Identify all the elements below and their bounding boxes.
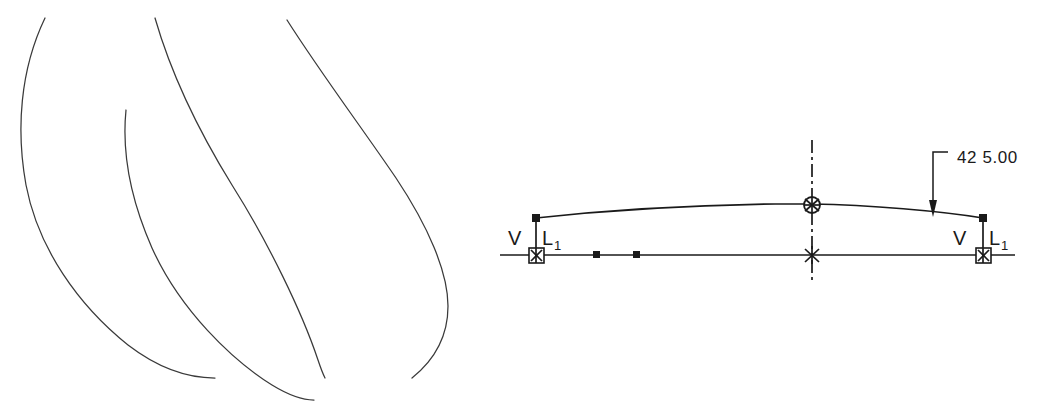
constraint-right-length-subscript: 1 [1001, 238, 1008, 253]
constraint-right-length[interactable]: L [989, 227, 1000, 249]
dimension-arrow-icon [929, 200, 937, 217]
baseline-point-2[interactable] [633, 251, 640, 258]
constraint-left-length[interactable]: L [542, 227, 553, 249]
baseline-point-1[interactable] [593, 251, 600, 258]
dimensioned-arc-sketch: 42 5.00 V L 1 V L 1 [0, 0, 1037, 410]
constraint-left-length-subscript: 1 [554, 238, 561, 253]
dimension-value-text[interactable]: 42 5.00 [957, 148, 1018, 167]
arc-left-node[interactable] [532, 214, 540, 222]
dimension-leader-line[interactable] [933, 152, 948, 206]
constraint-right-vertical[interactable]: V [953, 227, 967, 249]
profile-arc[interactable] [536, 204, 983, 218]
drawing-canvas: 42 5.00 V L 1 V L 1 [0, 0, 1037, 410]
arc-apex-cross-icon [804, 197, 820, 213]
arc-right-node[interactable] [979, 214, 987, 222]
constraint-left-vertical[interactable]: V [508, 227, 522, 249]
